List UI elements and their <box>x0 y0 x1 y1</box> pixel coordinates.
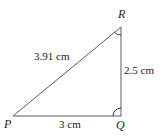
side-label-pq: 3 cm <box>59 118 81 130</box>
side-label-qr: 2.5 cm <box>124 64 154 76</box>
side-label-pr: 3.91 cm <box>34 50 70 62</box>
triangle-diagram: R Q P 3.91 cm 2.5 cm 3 cm <box>0 0 160 137</box>
vertex-label-p: P <box>3 117 12 131</box>
vertex-label-r: R <box>117 7 126 21</box>
angle-mark-q <box>113 108 121 116</box>
side-pr <box>13 27 121 116</box>
vertex-label-q: Q <box>116 118 125 132</box>
angle-mark-r <box>115 32 122 35</box>
